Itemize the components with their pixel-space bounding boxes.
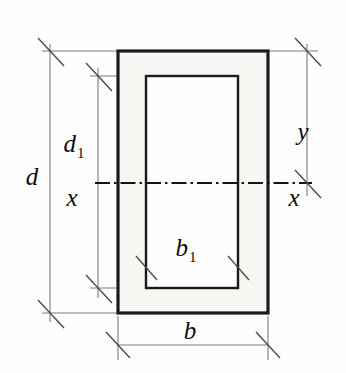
label-inner-depth-base: d: [64, 130, 77, 157]
label-inner-depth-d1: d1: [64, 130, 85, 161]
label-centroid-distance-y: y: [294, 118, 309, 145]
cross-section-diagram: d d1 b b1 x x y: [0, 0, 346, 373]
label-overall-width-b: b: [184, 317, 197, 344]
slash-tick-d1-bottom: [86, 275, 112, 303]
figure-container: d d1 b b1 x x y: [0, 0, 346, 373]
label-inner-depth-subscript: 1: [77, 145, 85, 161]
slash-tick-y-top: [295, 38, 321, 66]
label-axis-left-x: x: [65, 184, 77, 211]
label-inner-width-subscript: 1: [189, 249, 197, 265]
label-axis-right-x: x: [287, 184, 299, 211]
label-inner-width-base: b: [176, 234, 189, 261]
slash-tick-d-top: [38, 38, 64, 66]
slash-tick-d1-top: [86, 63, 112, 91]
slash-tick-d-bottom: [38, 300, 64, 328]
label-overall-depth-d: d: [26, 163, 39, 190]
